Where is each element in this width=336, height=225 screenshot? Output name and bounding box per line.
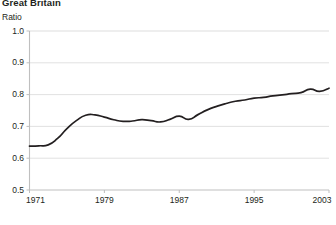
y-tick-label: 0.6 [2,153,24,163]
y-tick-label: 0.7 [2,121,24,131]
y-tick-label: 0.8 [2,89,24,99]
y-tick-label: 0.9 [2,57,24,67]
tick-marks [27,31,330,193]
x-tick-label: 1987 [170,195,189,205]
data-series-line [30,88,330,146]
axis-lines [30,31,330,190]
x-tick-label: 1979 [95,195,114,205]
y-tick-label: 1.0 [2,26,24,36]
x-tick-label: 1995 [245,195,264,205]
x-tick-label: 1971 [26,195,45,205]
figure-container: Great Britain Ratio 1.00.90.80.70.60.5 1… [0,0,336,225]
x-tick-label: 2003 [313,195,332,205]
line-chart [0,0,336,225]
y-tick-label: 0.5 [2,185,24,195]
